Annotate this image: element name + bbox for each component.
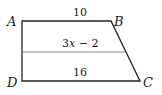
midline-length: 3x − 2: [62, 37, 98, 50]
vertex-label-b: B: [113, 14, 124, 29]
midline-rest: − 2: [75, 37, 98, 50]
vertex-label-c: C: [143, 75, 153, 90]
top-base-length: 10: [73, 6, 87, 19]
vertex-label-d: D: [6, 75, 18, 90]
trapezoid-diagram: A B C D 10 3x − 2 16: [0, 0, 162, 95]
vertex-label-a: A: [6, 14, 16, 29]
bottom-base-length: 16: [73, 66, 87, 79]
midline-coef: 3: [62, 37, 69, 50]
